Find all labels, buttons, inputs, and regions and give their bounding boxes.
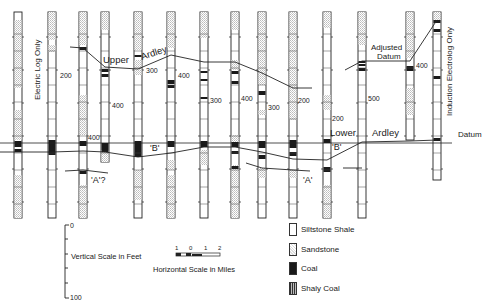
legend-item-shaly-coal: Shaly Coal: [289, 282, 459, 296]
well-log-column: [229, 12, 241, 218]
hscale-tick-0: 0: [189, 245, 193, 251]
depth-label: 400: [88, 134, 100, 141]
hscale-tick-1b: 1: [204, 245, 208, 251]
horizontal-scale: 1 0 1 2 Horizontal Scale in Miles: [153, 245, 235, 274]
legend-label: Shaly Coal: [301, 282, 340, 295]
induction-electrolog-only-label: Induction Electrolog Only: [445, 27, 454, 116]
depth-label: 400: [241, 95, 253, 102]
vertical-scale-bottom: 100: [70, 294, 82, 301]
hscale-tick-1: 1: [175, 245, 179, 251]
depth-label: 400: [416, 62, 428, 69]
vertical-scale-title: Vertical Scale in Feet: [71, 252, 142, 261]
upper-label: Upper: [103, 54, 129, 65]
well-log-column: [46, 12, 58, 218]
horizontal-scale-title: Horizontal Scale in Miles: [153, 265, 235, 274]
marker-b-label-2: 'B': [332, 142, 342, 152]
well-log-column: [165, 12, 177, 218]
legend-item-sandstone: Sandstone: [289, 243, 459, 257]
electric-log-only-label: Electric Log Only: [33, 40, 42, 100]
well-log-column: [77, 12, 89, 218]
depth-label: 200: [332, 115, 344, 122]
well-log-column: [404, 12, 416, 140]
well-log-column: [132, 12, 144, 218]
well-log-column: [256, 12, 268, 218]
depth-label: 400: [112, 102, 124, 109]
marker-b-label-1: 'B': [150, 143, 160, 153]
well-log-column: [431, 12, 443, 180]
well-log-column: [12, 12, 24, 218]
ardley-lower-label: Ardley: [372, 127, 399, 138]
marker-a-label: 'A': [303, 175, 313, 185]
depth-label: 500: [368, 95, 380, 102]
shaly-coal-swatch-icon: [289, 282, 297, 295]
depth-label: 300: [210, 97, 222, 104]
depth-label: 400: [178, 72, 190, 79]
legend-item-coal: Coal: [289, 262, 459, 276]
lower-label: Lower: [330, 127, 356, 138]
adjusted-datum-label-1: Adjusted: [371, 43, 402, 52]
depth-label: 300: [146, 67, 158, 74]
depth-label: 200: [60, 72, 72, 79]
adjusted-datum-label-2: Datum: [377, 52, 401, 61]
vertical-scale-top: 0: [70, 222, 74, 229]
depth-label: 200: [298, 97, 310, 104]
depth-label: 300: [268, 104, 280, 111]
legend-label: Coal: [301, 262, 317, 275]
marker-a-question-label: 'A'?: [91, 175, 105, 185]
legend-label: Sandstone: [301, 243, 339, 256]
legend-label: Siltstone Shale: [301, 223, 354, 236]
coal-swatch-icon: [289, 262, 297, 275]
cross-section-svg: 200400400300400300400300200200500400 Upp…: [0, 0, 489, 307]
sandstone-swatch-icon: [289, 243, 297, 256]
well-log-column: [99, 12, 111, 162]
well-log-column: [287, 12, 299, 218]
marker-a-line: [246, 163, 310, 171]
well-log-column: [198, 12, 210, 218]
cross-section-diagram: 200400400300400300400300200200500400 Upp…: [0, 0, 489, 307]
legend-item-siltstone: Siltstone Shale: [289, 223, 459, 237]
vertical-scale: 0 100 Vertical Scale in Feet: [65, 222, 142, 301]
hscale-tick-2: 2: [218, 245, 222, 251]
siltstone-swatch-icon: [289, 223, 297, 236]
well-log-column: [356, 12, 368, 218]
ardley-upper-label: Ardley: [139, 43, 168, 62]
datum-label: Datum: [458, 130, 482, 139]
